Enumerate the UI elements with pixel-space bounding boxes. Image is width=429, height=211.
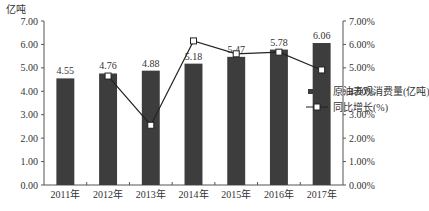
bar [227,57,245,185]
bar [270,50,288,185]
chart: 亿吨 0.001.002.003.004.005.006.007.00 0.00… [0,0,429,211]
legend-bar-label: 原油表观消费量(亿吨) [333,85,429,98]
bar [313,43,331,185]
line-point [148,122,154,128]
x-tick-label: 2011年 [51,188,81,200]
x-tick-label: 2015年 [221,188,251,200]
line-point [191,38,197,44]
bar [185,64,203,185]
bar [56,78,74,185]
left-tick-label: 3.00 [21,109,39,120]
bar-data-label: 4.76 [99,60,117,71]
legend-line-marker-icon [314,104,320,110]
line-point [276,49,282,55]
bar-series [56,43,330,185]
x-tick-label: 2017年 [307,188,337,200]
right-tick-label: 2.00% [349,133,375,144]
bar-data-label: 4.55 [57,65,75,76]
left-tick-label: 0.00 [21,180,39,191]
right-tick-label: 6.00% [349,39,375,50]
growth-line [108,41,322,125]
right-tick-label: 1.00% [349,156,375,167]
x-tick-label: 2016年 [264,188,294,200]
left-tick-label: 4.00 [21,86,39,97]
bar-data-label: 4.88 [142,58,160,69]
left-tick-label: 5.00 [21,62,39,73]
right-tick-label: 5.00% [349,62,375,73]
left-tick-label: 6.00 [21,39,39,50]
line-point [233,51,239,57]
line-point [319,67,325,73]
left-tick-label: 2.00 [21,133,39,144]
x-tick-label: 2013年 [136,188,166,200]
line-point [105,73,111,79]
right-tick-label: 7.00% [349,16,375,27]
bar [99,73,117,185]
bar-data-label: 5.78 [270,37,288,48]
legend-line-label: 同比增长(%) [333,101,388,114]
line-series [105,38,325,128]
x-tick-label: 2012年 [93,188,123,200]
left-tick-label: 7.00 [21,16,39,27]
bar-data-label: 6.06 [313,30,331,41]
x-axis-tick-labels: 2011年2012年2013年2014年2015年2016年2017年 [51,188,337,200]
right-tick-label: 0.00% [349,180,375,191]
x-tick-label: 2014年 [179,188,209,200]
left-tick-label: 1.00 [21,156,39,167]
left-axis-unit-label: 亿吨 [6,3,26,15]
legend-bar-swatch [308,89,326,94]
